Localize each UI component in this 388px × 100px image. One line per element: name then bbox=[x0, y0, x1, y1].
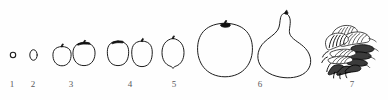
stage-4-fruit-left-outline bbox=[107, 41, 128, 65]
stage-label-2: 2 bbox=[26, 79, 40, 89]
figure-drawing-canvas bbox=[0, 0, 388, 100]
stage-4-fruit-right-outline bbox=[132, 41, 153, 67]
stage-label-3: 3 bbox=[64, 79, 78, 89]
stage-label-5: 5 bbox=[167, 79, 181, 89]
stage-4-specimen-group bbox=[107, 38, 152, 66]
stage-6-round-fruit-outline bbox=[198, 23, 253, 77]
stage-label-6: 6 bbox=[253, 79, 267, 89]
stage-label-1: 1 bbox=[5, 79, 19, 89]
stage-3-fruit-right-outline bbox=[73, 43, 95, 66]
stage-5-specimen-group bbox=[162, 36, 184, 69]
figure-plate: 1 2 3 4 5 6 7 bbox=[0, 0, 388, 100]
stage-7-specimen-group bbox=[322, 25, 378, 78]
stage-4-fruit-left-stem-icon bbox=[112, 41, 124, 44]
stage-1-specimen-group bbox=[10, 52, 15, 57]
stage-6-specimen-group bbox=[198, 10, 311, 78]
stage-7-lobe-pale-2 bbox=[328, 56, 353, 64]
stage-1-ovary-dot bbox=[10, 52, 15, 57]
stage-3-specimen-group bbox=[53, 40, 95, 66]
stage-label-7: 7 bbox=[345, 79, 359, 89]
stage-3-fruit-left-outline bbox=[53, 47, 71, 66]
stage-5-lemon-outline bbox=[162, 38, 184, 68]
stage-2-specimen-group bbox=[30, 50, 37, 61]
stage-label-4: 4 bbox=[123, 79, 137, 89]
stage-6-pear-calyx-icon bbox=[285, 12, 288, 14]
stage-6-pear-outline bbox=[258, 13, 311, 78]
stage-2-oval-fruit bbox=[30, 50, 37, 61]
